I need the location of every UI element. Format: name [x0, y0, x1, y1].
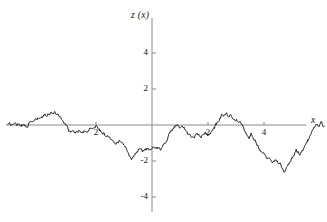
y-tick-label-4: 4 — [138, 47, 148, 57]
x-tick-label--2: 2 — [91, 127, 101, 137]
random-walk-plot — [0, 0, 327, 222]
x-tick-label-2: 2 — [203, 127, 213, 137]
x-axis-label: x — [311, 115, 316, 125]
chart-figure: z (x) x 42-2-4224 — [0, 0, 327, 222]
axes-group — [6, 18, 306, 212]
y-tick-label--4: -4 — [138, 191, 148, 201]
x-tick-label-4: 4 — [259, 127, 269, 137]
y-tick-label--2: -2 — [138, 155, 148, 165]
y-tick-label-2: 2 — [138, 83, 148, 93]
y-axis-label: z (x) — [131, 10, 149, 20]
series-line-z — [8, 111, 324, 172]
